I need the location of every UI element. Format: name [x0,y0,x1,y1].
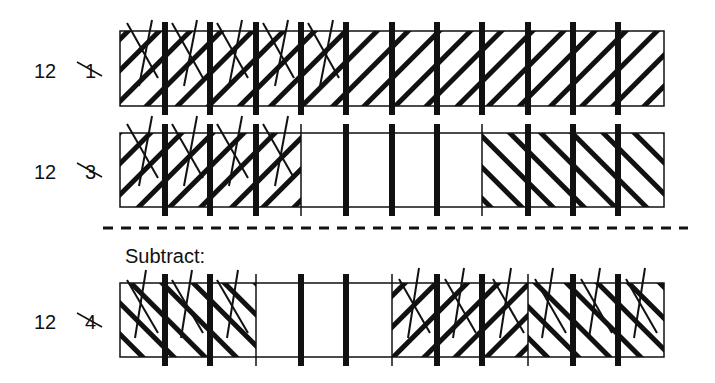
row-3-label: 12 4 [34,311,102,333]
row-2-bar [120,116,664,216]
fraction-diagram: 12 1 12 3 12 4 [0,0,715,383]
row-3-denominator: 12 [34,311,56,333]
subtract-label: Subtract: [125,245,205,267]
row-1-bar [120,20,664,115]
row-1-denominator: 12 [34,60,56,82]
row-2-label: 12 3 [34,161,102,183]
row-3-bar [120,268,664,366]
row-2-denominator: 12 [34,161,56,183]
row-1-label: 12 1 [34,60,102,82]
